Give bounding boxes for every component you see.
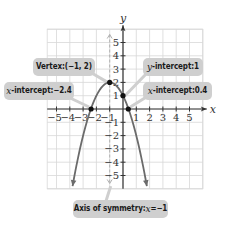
key-point-dot bbox=[107, 80, 112, 85]
callout-vertex-value: (−1, 2) bbox=[65, 63, 92, 71]
callout-x-intercept-left-value: −2.4 bbox=[53, 87, 71, 95]
y-tick-label: 4 bbox=[113, 50, 119, 61]
x-tick-label: 4 bbox=[173, 112, 179, 123]
callout-x-intercept-right: x-intercept: 0.4 bbox=[143, 82, 212, 100]
key-point-dot bbox=[120, 93, 125, 98]
callout-x-intercept-right-value: 0.4 bbox=[195, 87, 207, 95]
callout-vertex-prefix: Vertex: bbox=[36, 63, 65, 71]
callout-x-intercept-left: x-intercept: −2.4 bbox=[4, 82, 74, 100]
x-axis-label: x bbox=[210, 103, 217, 116]
callout-x-intercept-right-prefix: -intercept: bbox=[153, 87, 195, 95]
y-axis-label: y bbox=[119, 12, 127, 25]
parabola-chart: −5−4−3−2−11234554321−1−2−3−4−5xy bbox=[0, 0, 230, 227]
y-tick-label: −2 bbox=[104, 130, 119, 141]
callout-y-intercept-prefix: -intercept: bbox=[152, 63, 194, 71]
callout-axis-prefix: Axis of symmetry: bbox=[74, 205, 146, 213]
y-tick-label: 1 bbox=[113, 90, 119, 101]
callout-vertex: Vertex: (−1, 2) bbox=[33, 58, 95, 76]
y-tick-label: −5 bbox=[104, 170, 119, 181]
callout-y-intercept-value: 1 bbox=[194, 63, 199, 71]
callout-axis-of-symmetry: Axis of symmetry: x = −1 bbox=[73, 200, 168, 218]
key-point-dot bbox=[126, 106, 131, 111]
y-tick-label: 5 bbox=[113, 37, 119, 48]
x-tick-label: 2 bbox=[146, 112, 152, 123]
y-tick-label: −4 bbox=[104, 157, 119, 168]
x-tick-label: 1 bbox=[133, 112, 139, 123]
x-tick-label: 5 bbox=[186, 112, 192, 123]
key-point-dot bbox=[88, 106, 93, 111]
y-tick-label: 3 bbox=[113, 64, 119, 75]
callout-y-intercept: y-intercept: 1 bbox=[143, 58, 203, 76]
callout-axis-value: −1 bbox=[156, 205, 167, 213]
y-tick-label: −1 bbox=[104, 117, 119, 128]
y-tick-label: −3 bbox=[104, 143, 119, 154]
callout-x-intercept-left-prefix: -intercept: bbox=[11, 87, 53, 95]
leader-axis-of-symmetry bbox=[106, 186, 111, 201]
x-tick-label: 3 bbox=[160, 112, 166, 123]
